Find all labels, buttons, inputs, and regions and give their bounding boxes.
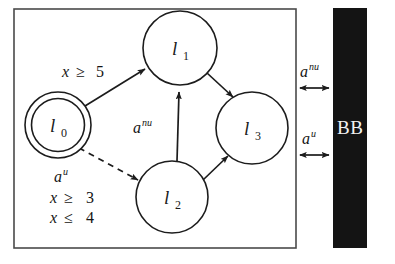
edge-l1-to-l3 <box>207 73 233 97</box>
node-l2-label: l <box>164 187 169 208</box>
channel-a-u-label-superscript: u <box>311 128 316 139</box>
black-box-label: BB <box>337 117 363 138</box>
edge-l0-to-l1 <box>85 69 145 106</box>
guard-label-x-ge-5-op: ≥ <box>76 63 85 80</box>
node-l1-label: l <box>172 38 177 59</box>
node-l2-label-subscript: 2 <box>175 198 181 212</box>
channel-a-nu-label-base: a <box>300 63 308 80</box>
guard-label-x-ge-5-var: x <box>61 63 69 80</box>
guard-label-x-ge-5-value: 5 <box>96 63 104 80</box>
guard-label-x-ge-3-value: 3 <box>86 189 94 206</box>
guard-label-a-u-superscript: u <box>63 166 68 177</box>
edge-label-a-nu-base: a <box>133 119 141 136</box>
guard-label-x-le-4-op: ≤ <box>64 209 73 226</box>
node-l3-label: l <box>244 118 249 139</box>
edge-l0-to-l2 <box>79 148 138 180</box>
channel-a-u-label-base: a <box>302 130 310 147</box>
edge-l2-to-l1 <box>177 92 179 161</box>
node-l3-label-subscript: 3 <box>255 129 261 143</box>
node-l3-circle <box>216 92 288 164</box>
automaton-svg: l 0 l 1 l 2 l 3 x ≥ 5 a nu a u x ≥ 3 x ≤… <box>0 0 395 264</box>
guard-label-x-ge-3-op: ≥ <box>64 189 73 206</box>
edge-l2-to-l3 <box>203 156 228 180</box>
node-l1-label-subscript: 1 <box>183 49 189 63</box>
guard-label-x-ge-3-var: x <box>49 189 57 206</box>
edge-label-a-nu-superscript: nu <box>142 117 152 128</box>
node-l0-label-subscript: 0 <box>61 126 67 140</box>
guard-label-x-le-4-value: 4 <box>86 209 94 226</box>
guard-label-x-le-4-var: x <box>49 209 57 226</box>
diagram-canvas: l 0 l 1 l 2 l 3 x ≥ 5 a nu a u x ≥ 3 x ≤… <box>0 0 395 264</box>
node-l1-circle <box>143 11 217 85</box>
node-l0-inner-circle <box>32 99 85 152</box>
node-l0-label: l <box>50 115 55 136</box>
guard-label-a-u-base: a <box>54 168 62 185</box>
channel-a-nu-label-superscript: nu <box>309 61 319 72</box>
node-l2-circle <box>136 161 208 233</box>
